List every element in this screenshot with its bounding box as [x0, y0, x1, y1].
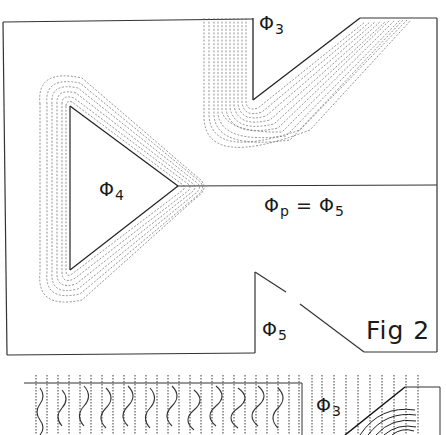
- phi5-rhs-subscript: 5: [335, 203, 344, 219]
- label-phi5: Φ5: [262, 320, 287, 339]
- phi4-subscript: 4: [115, 187, 124, 203]
- inset-phi3-symbol: Φ: [316, 394, 331, 416]
- inset-field-plot: [24, 375, 440, 435]
- phi-p-subscript: p: [280, 203, 289, 219]
- label-phi3: Φ3: [259, 14, 284, 33]
- interface-line: [178, 185, 437, 186]
- label-phi4: Φ4: [99, 180, 124, 199]
- phi3-subscript: 3: [275, 21, 284, 37]
- equals-sign: =: [296, 194, 312, 216]
- phi5-subscript: 5: [278, 327, 287, 343]
- figure-caption: Fig 2: [366, 318, 430, 343]
- phi-p-symbol: Φ: [264, 194, 279, 216]
- phi4-symbol: Φ: [99, 178, 114, 200]
- domain-boundary: [3, 18, 437, 355]
- label-boundary-condition: Φp = Φ5: [264, 196, 344, 215]
- phi5-symbol: Φ: [262, 318, 277, 340]
- inset-phi3-subscript: 3: [332, 403, 341, 419]
- notch-contours: [204, 18, 411, 147]
- potential-field-diagram: [0, 0, 446, 435]
- phi3-symbol: Φ: [259, 12, 274, 34]
- inset-label-phi3: Φ3: [316, 396, 341, 415]
- phi5-rhs-symbol: Φ: [319, 194, 334, 216]
